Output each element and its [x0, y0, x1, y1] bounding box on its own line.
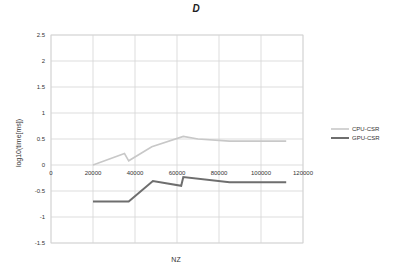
legend-label: GPU-CSR: [352, 135, 380, 141]
y-tick-label: 2: [42, 58, 46, 64]
y-tick-label: -1: [40, 214, 46, 220]
legend-label: CPU-CSR: [352, 126, 380, 132]
x-tick-label: 60000: [169, 170, 186, 176]
y-axis-ticks: 2.521.510.50-0.5-1-1.5: [35, 32, 46, 246]
legend: CPU-CSRGPU-CSR: [331, 126, 380, 141]
x-tick-label: 40000: [127, 170, 144, 176]
chart-title: D: [192, 3, 199, 14]
x-tick-label: 80000: [211, 170, 228, 176]
line-chart: D 2.521.510.50-0.5-1-1.5 020000400006000…: [0, 0, 394, 276]
y-tick-label: 1: [42, 110, 46, 116]
y-tick-label: 2.5: [37, 32, 46, 38]
y-tick-label: 0.5: [37, 136, 46, 142]
x-tick-label: 20000: [85, 170, 102, 176]
y-axis-label: log10(time[ms]): [15, 119, 23, 167]
x-tick-label: 100000: [251, 170, 272, 176]
y-tick-label: 0: [42, 162, 46, 168]
y-tick-label: 1.5: [37, 84, 46, 90]
x-tick-label: 120000: [293, 170, 314, 176]
y-tick-label: -1.5: [35, 240, 46, 246]
y-tick-label: -0.5: [35, 188, 46, 194]
x-axis-label: NZ: [171, 256, 181, 263]
